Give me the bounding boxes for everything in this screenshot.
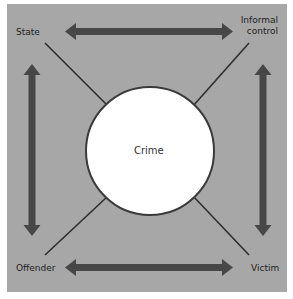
victim-label: Victim xyxy=(251,263,279,273)
informal-control-label-line2: control xyxy=(236,26,278,37)
node-state: State xyxy=(16,27,40,38)
node-informal-control: Informal control xyxy=(236,15,278,37)
line-offender-crime xyxy=(45,196,108,255)
crime-label: Crime xyxy=(134,145,164,156)
arrow-state-offender xyxy=(24,64,41,236)
arrow-state-informal-control xyxy=(65,23,233,40)
node-victim: Victim xyxy=(251,263,279,274)
line-informal-crime xyxy=(193,43,249,106)
offender-label: Offender xyxy=(16,263,55,273)
node-offender: Offender xyxy=(16,263,55,274)
line-state-crime xyxy=(45,43,108,106)
arrow-informal-control-victim xyxy=(255,64,272,236)
arrow-offender-victim xyxy=(65,259,233,276)
state-label: State xyxy=(16,27,40,37)
line-victim-crime xyxy=(193,196,249,255)
informal-control-label-line1: Informal xyxy=(236,15,278,26)
